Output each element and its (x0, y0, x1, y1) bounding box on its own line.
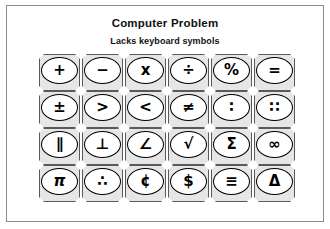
key-multiply[interactable]: x (124, 54, 167, 91)
key-cent[interactable]: ¢ (124, 165, 167, 202)
key-greater-than[interactable]: > (81, 91, 124, 128)
key-radical[interactable]: √ (167, 128, 210, 165)
page-subtitle: Lacks keyboard symbols (0, 36, 330, 46)
key-identical-icon: ≡ (225, 174, 238, 189)
key-perpendicular[interactable]: ⊥ (81, 128, 124, 165)
key-plus-minus[interactable]: ± (38, 91, 81, 128)
key-therefore-icon: ∴ (97, 174, 107, 189)
key-less-than-icon: < (139, 100, 152, 115)
page-root: Computer Problem Lacks keyboard symbols … (0, 0, 330, 229)
key-divide-icon: ÷ (182, 63, 195, 78)
key-identical[interactable]: ≡ (210, 165, 253, 202)
key-less-than[interactable]: < (124, 91, 167, 128)
key-greater-than-icon: > (96, 100, 109, 115)
key-perpendicular-icon: ⊥ (96, 137, 110, 152)
page-title: Computer Problem (0, 17, 330, 29)
key-dollar[interactable]: $ (167, 165, 210, 202)
key-cent-icon: ¢ (140, 174, 150, 189)
key-minus[interactable]: − (81, 54, 124, 91)
key-plus-icon: + (53, 63, 66, 78)
key-multiply-icon: x (141, 63, 151, 78)
key-equals[interactable]: = (253, 54, 296, 91)
key-sigma[interactable]: Σ (210, 128, 253, 165)
key-angle-icon: ∠ (139, 137, 152, 152)
key-plus-minus-icon: ± (53, 100, 66, 115)
key-angle[interactable]: ∠ (124, 128, 167, 165)
key-percent[interactable]: % (210, 54, 253, 91)
key-percent-icon: % (224, 63, 239, 78)
key-plus[interactable]: + (38, 54, 81, 91)
key-delta-icon: Δ (269, 174, 281, 189)
key-not-equal[interactable]: ≠ (167, 91, 210, 128)
key-divide[interactable]: ÷ (167, 54, 210, 91)
key-pi[interactable]: π (38, 165, 81, 202)
key-equals-icon: = (268, 63, 281, 78)
key-sigma-icon: Σ (226, 137, 236, 152)
key-delta[interactable]: Δ (253, 165, 296, 202)
key-infinity-icon: ∞ (268, 137, 281, 152)
symbol-keypad: +−x÷%=±><≠∶∷∥⊥∠√Σ∞π∴¢$≡Δ (38, 54, 296, 202)
key-dollar-icon: $ (183, 174, 193, 189)
key-ratio[interactable]: ∶ (210, 91, 253, 128)
key-radical-icon: √ (183, 137, 193, 152)
key-ratio-icon: ∶ (229, 100, 233, 115)
key-parallel-icon: ∥ (56, 137, 64, 152)
key-proportion-icon: ∷ (269, 100, 279, 115)
key-minus-icon: − (96, 63, 109, 78)
key-not-equal-icon: ≠ (182, 100, 195, 115)
key-therefore[interactable]: ∴ (81, 165, 124, 202)
key-infinity[interactable]: ∞ (253, 128, 296, 165)
key-parallel[interactable]: ∥ (38, 128, 81, 165)
key-pi-icon: π (54, 174, 66, 189)
key-proportion[interactable]: ∷ (253, 91, 296, 128)
